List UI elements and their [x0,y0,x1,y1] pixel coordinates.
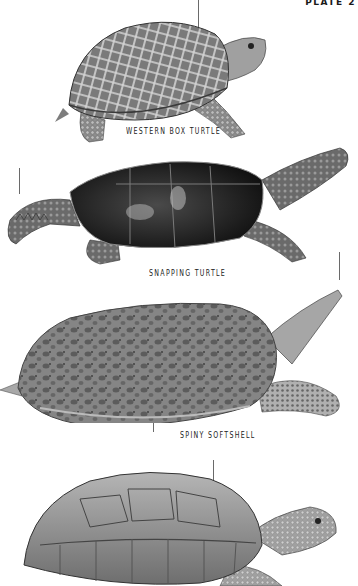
tortoise-illustration [20,465,340,586]
snapping-turtle-illustration [0,140,358,265]
spiny-softshell-illustration [0,278,358,423]
plate-number-label: PLATE 2 [305,0,356,7]
specimen-caption-snapping-turtle: SNAPPING TURTLE [149,268,226,278]
western-box-turtle-illustration [55,10,285,145]
specimen-caption-spiny-softshell: SPINY SOFTSHELL [180,430,256,440]
specimen-caption-western-box-turtle: WESTERN BOX TURTLE [126,126,221,136]
